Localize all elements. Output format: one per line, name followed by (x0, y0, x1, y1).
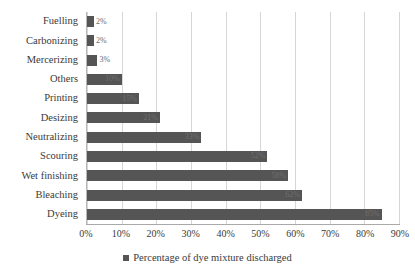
bar-row: 33% (87, 128, 399, 147)
x-tick-label: 0% (79, 228, 92, 239)
category-label: Scouring (0, 147, 82, 166)
category-label: Dyeing (0, 205, 82, 224)
bar-row: 52% (87, 147, 399, 166)
chart-legend: Percentage of dye mixture discharged (0, 252, 415, 263)
bar-value-label: 85% (365, 210, 382, 218)
bar-value-label: 58% (271, 172, 288, 180)
bar: 21% (87, 112, 160, 123)
bar: 2% (87, 16, 94, 27)
legend-swatch-icon (123, 255, 129, 261)
bar-value-label: 52% (251, 152, 268, 160)
x-axis-line (86, 224, 400, 225)
x-tick-label: 20% (147, 228, 165, 239)
category-label: Desizing (0, 108, 82, 127)
x-tick-label: 60% (286, 228, 304, 239)
bar-value-label: 33% (185, 133, 202, 141)
bar: 2% (87, 35, 94, 46)
bar-row: 21% (87, 108, 399, 127)
bar: 3% (87, 55, 97, 66)
x-tick-label: 80% (356, 228, 374, 239)
bar-row: 2% (87, 31, 399, 50)
category-label: Printing (0, 89, 82, 108)
bar-row: 10% (87, 70, 399, 89)
category-label: Wet finishing (0, 166, 82, 185)
bar-value-label: 2% (94, 18, 107, 26)
x-axis-tick-labels: 0%10%20%30%40%50%60%70%80%90% (86, 228, 400, 244)
category-label: Neutralizing (0, 128, 82, 147)
bar-value-label: 15% (122, 95, 139, 103)
bar: 15% (87, 93, 139, 104)
bar-value-label: 2% (94, 37, 107, 45)
category-axis-labels: FuellingCarbonizingMercerizingOthersPrin… (0, 12, 82, 224)
x-tick-label: 50% (251, 228, 269, 239)
category-label: Others (0, 70, 82, 89)
bar-chart: FuellingCarbonizingMercerizingOthersPrin… (0, 0, 415, 280)
category-label: Fuelling (0, 12, 82, 31)
x-tick-label: 30% (181, 228, 199, 239)
bar-value-label: 62% (285, 191, 302, 199)
bar-row: 2% (87, 12, 399, 31)
x-tick-label: 70% (321, 228, 339, 239)
gridline (399, 12, 400, 224)
bar-value-label: 21% (143, 114, 160, 122)
category-label: Mercerizing (0, 51, 82, 70)
plot-area: 2%2%3%10%15%21%33%52%58%62%85% (86, 12, 400, 224)
bar-row: 15% (87, 89, 399, 108)
bar: 62% (87, 190, 302, 201)
legend-label: Percentage of dye mixture discharged (133, 252, 291, 263)
bar-series: 2%2%3%10%15%21%33%52%58%62%85% (87, 12, 399, 224)
bar-row: 3% (87, 51, 399, 70)
x-tick-label: 10% (112, 228, 130, 239)
bar-row: 58% (87, 166, 399, 185)
category-label: Bleaching (0, 185, 82, 204)
bar: 10% (87, 74, 122, 85)
x-tick-label: 90% (391, 228, 409, 239)
bar-value-label: 3% (97, 56, 110, 64)
bar: 52% (87, 151, 267, 162)
bar: 85% (87, 209, 382, 220)
bar: 58% (87, 170, 288, 181)
bar: 33% (87, 132, 201, 143)
bar-row: 85% (87, 205, 399, 224)
x-tick-label: 40% (216, 228, 234, 239)
category-label: Carbonizing (0, 31, 82, 50)
bar-value-label: 10% (105, 75, 122, 83)
bar-row: 62% (87, 185, 399, 204)
